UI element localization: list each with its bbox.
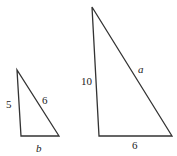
small-triangle: 5 6 b bbox=[6, 70, 59, 154]
small-base-label: b bbox=[36, 142, 42, 154]
large-triangle: 10 a 6 bbox=[81, 7, 172, 151]
small-left-side-label: 5 bbox=[6, 98, 12, 110]
similar-triangles-diagram: 5 6 b 10 a 6 bbox=[0, 0, 177, 156]
small-triangle-shape bbox=[17, 70, 59, 136]
small-hypotenuse-label: 6 bbox=[42, 94, 48, 106]
large-hypotenuse-label: a bbox=[138, 63, 144, 75]
large-base-label: 6 bbox=[132, 139, 138, 151]
large-left-side-label: 10 bbox=[81, 75, 93, 87]
large-triangle-shape bbox=[92, 7, 172, 136]
